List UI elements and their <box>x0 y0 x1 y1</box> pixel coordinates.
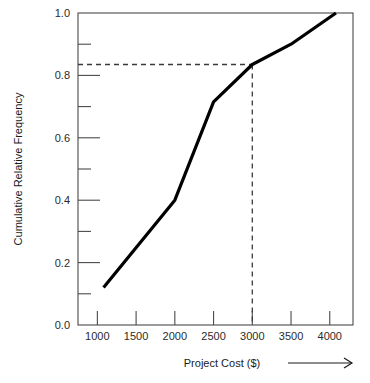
y-tick-label: 0.4 <box>55 194 70 206</box>
y-tick-label: 0.2 <box>55 257 70 269</box>
x-tick-label: 4000 <box>318 330 342 342</box>
x-tick-label: 2500 <box>201 330 225 342</box>
chart-container: 0.00.20.40.60.81.0 100015002000250030003… <box>0 0 370 383</box>
x-tick-label: 1000 <box>85 330 109 342</box>
x-tick-label: 1500 <box>124 330 148 342</box>
y-axis-title: Cumulative Relative Frequency <box>12 92 24 245</box>
y-tick-label: 0.8 <box>55 69 70 81</box>
y-tick-label: 0.6 <box>55 132 70 144</box>
cumulative-frequency-line <box>104 13 336 288</box>
x-tick-label: 2000 <box>163 330 187 342</box>
x-axis-title: Project Cost ($) <box>184 357 260 369</box>
x-tick-label: 3000 <box>240 330 264 342</box>
cumulative-frequency-chart: 0.00.20.40.60.81.0 100015002000250030003… <box>0 0 370 383</box>
x-axis-ticks <box>97 311 329 325</box>
x-axis-direction-arrow <box>288 358 352 368</box>
y-axis-ticks <box>78 44 100 294</box>
plot-frame <box>78 13 353 325</box>
x-tick-label: 3500 <box>279 330 303 342</box>
y-tick-label: 0.0 <box>55 319 70 331</box>
y-tick-label: 1.0 <box>55 7 70 19</box>
y-axis-tick-labels: 0.00.20.40.60.81.0 <box>55 7 70 331</box>
x-axis-tick-labels: 1000150020002500300035004000 <box>85 330 342 342</box>
